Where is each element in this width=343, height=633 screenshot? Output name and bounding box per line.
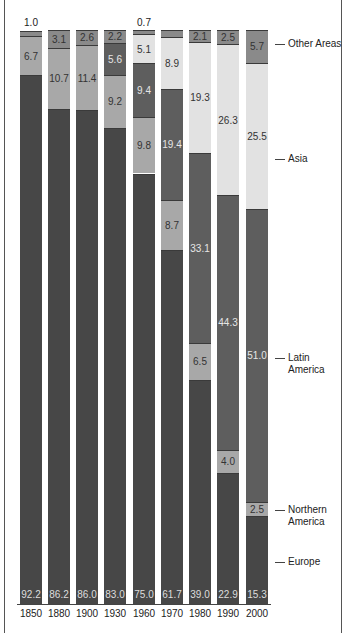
- segment-value-label: 25.5: [247, 131, 266, 142]
- x-tick-label: 1900: [73, 608, 101, 619]
- x-tick-label: 1880: [45, 608, 73, 619]
- bar-segment-latin-america: 51.0: [246, 209, 268, 502]
- bar-segment-europe: 86.2: [48, 109, 70, 604]
- legend-leader-line: [275, 510, 285, 511]
- segment-value-label: 9.8: [137, 140, 151, 151]
- segment-value-label: 5.6: [108, 54, 122, 65]
- bar-segment-latin-america: 5.6: [104, 43, 126, 75]
- legend-northern-america: NorthernAmerica: [275, 504, 327, 528]
- bar-segment-other-areas: 5.7: [246, 30, 268, 63]
- segment-value-label: 3.1: [52, 34, 66, 45]
- bar-segment-europe: 86.0: [76, 110, 98, 604]
- segment-value-label: 51.0: [247, 350, 266, 361]
- segment-value-label: 8.7: [165, 220, 179, 231]
- legend-leader-line: [275, 44, 285, 45]
- bar-segment-other-areas: 2.6: [76, 30, 98, 45]
- bar-segment-other-areas: [161, 30, 183, 37]
- bar-segment-northern-america: 6.5: [189, 343, 211, 380]
- segment-value-label: 19.4: [162, 139, 181, 150]
- segment-value-label: 5.1: [137, 44, 151, 55]
- bar-segment-northern-america: 2.5: [246, 502, 268, 516]
- x-tick-label: 2000: [243, 608, 271, 619]
- segment-value-label: 86.2: [49, 589, 68, 604]
- segment-value-label: 15.3: [247, 589, 266, 604]
- segment-value-label: 2.6: [80, 32, 94, 43]
- bar-segment-northern-america: 10.7: [48, 48, 70, 109]
- legend-label: America: [275, 364, 325, 375]
- segment-value-label: 92.2: [21, 589, 40, 604]
- legend-label: Asia: [288, 153, 307, 164]
- bar-segment-asia: 26.3: [217, 44, 239, 195]
- segment-value-label: 26.3: [218, 115, 237, 126]
- segment-value-label: 44.3: [218, 317, 237, 328]
- x-axis-baseline: [17, 604, 271, 605]
- segment-value-label: 2.5: [250, 504, 264, 515]
- x-tick-label: 1970: [158, 608, 186, 619]
- x-tick-label: 1990: [214, 608, 242, 619]
- bar-segment-other-areas: 2.1: [189, 30, 211, 42]
- legend-asia: Asia: [275, 153, 307, 165]
- bar-segment-latin-america: 33.1: [189, 153, 211, 343]
- bar-segment-europe: 22.9: [217, 473, 239, 604]
- legend-label: Other Areas: [288, 38, 341, 49]
- bar-segment-latin-america: 9.4: [133, 63, 155, 117]
- x-tick-label: 1930: [101, 608, 129, 619]
- bar-segment-asia: 19.3: [189, 42, 211, 153]
- segment-value-label: 9.4: [137, 85, 151, 96]
- legend-label: Europe: [288, 556, 320, 567]
- bar-segment-other-areas: [133, 30, 155, 34]
- outside-value-label: 1.0: [20, 17, 42, 28]
- segment-value-label: 39.0: [190, 589, 209, 604]
- bar-segment-northern-america: 9.2: [104, 75, 126, 128]
- segment-value-label: 83.0: [105, 589, 124, 604]
- x-tick-label: 1850: [17, 608, 45, 619]
- legend-other-areas: Other Areas: [275, 38, 341, 50]
- bar-segment-northern-america: 11.4: [76, 45, 98, 110]
- segment-value-label: 2.2: [108, 31, 122, 42]
- segment-value-label: 75.0: [134, 589, 153, 604]
- bar-segment-northern-america: 6.7: [20, 36, 42, 74]
- segment-value-label: 61.7: [162, 589, 181, 604]
- bar-segment-northern-america: 8.7: [161, 200, 183, 250]
- bar-segment-other-areas: 2.2: [104, 30, 126, 43]
- segment-value-label: 86.0: [77, 589, 96, 604]
- legend-leader-line: [275, 562, 285, 563]
- segment-value-label: 4.0: [221, 456, 235, 467]
- segment-value-label: 33.1: [190, 243, 209, 254]
- bar-segment-other-areas: 3.1: [48, 30, 70, 48]
- legend-latin-america: LatinAmerica: [275, 352, 325, 376]
- segment-value-label: 6.5: [193, 356, 207, 367]
- bar-segment-europe: 92.2: [20, 75, 42, 604]
- bar-segment-asia: 8.9: [161, 37, 183, 88]
- bar-segment-europe: 83.0: [104, 128, 126, 604]
- legend-label: Latin: [288, 352, 310, 363]
- legend-label: America: [275, 516, 325, 527]
- x-tick-label: 1980: [186, 608, 214, 619]
- bar-segment-northern-america: 9.8: [133, 117, 155, 173]
- bar-segment-europe: 39.0: [189, 380, 211, 604]
- segment-value-label: 6.7: [24, 51, 38, 62]
- segment-value-label: 9.2: [108, 96, 122, 107]
- stacked-bar-chart: 92.26.71.0185086.210.73.1188086.011.42.6…: [0, 0, 343, 633]
- segment-value-label: 11.4: [78, 73, 97, 84]
- segment-value-label: 2.5: [221, 32, 235, 43]
- segment-value-label: 8.9: [165, 58, 179, 69]
- segment-value-label: 2.1: [193, 31, 207, 42]
- legend-europe: Europe: [275, 556, 320, 568]
- bar-segment-asia: 5.1: [133, 34, 155, 63]
- bar-segment-other-areas: [20, 31, 42, 37]
- bar-segment-northern-america: 4.0: [217, 450, 239, 473]
- bar-segment-asia: 25.5: [246, 63, 268, 209]
- legend-label: Northern: [288, 504, 327, 515]
- segment-value-label: 22.9: [218, 589, 237, 604]
- bar-segment-latin-america: 19.4: [161, 89, 183, 200]
- segment-value-label: 5.7: [250, 41, 264, 52]
- bar-segment-europe: 61.7: [161, 250, 183, 604]
- segment-value-label: 19.3: [190, 92, 209, 103]
- outside-value-label: 0.7: [133, 17, 155, 28]
- legend-leader-line: [275, 358, 285, 359]
- legend-leader-line: [275, 159, 285, 160]
- segment-value-label: 10.7: [49, 73, 68, 84]
- bar-segment-other-areas: 2.5: [217, 30, 239, 44]
- bar-segment-europe: 75.0: [133, 174, 155, 605]
